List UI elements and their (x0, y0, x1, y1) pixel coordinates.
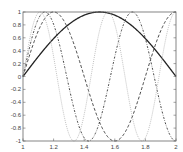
y-tick-label: -0.8 (11, 125, 22, 131)
series-dashed (23, 12, 176, 141)
y-tick-label: -1 (16, 138, 22, 144)
x-axis-ticks: 11.21.41.61.82 (21, 139, 178, 151)
y-tick-label: -0.6 (11, 112, 22, 118)
y-tick-label: 0.6 (13, 35, 22, 41)
y-tick-label: -0.4 (11, 99, 22, 105)
line-chart: 11.21.41.61.82 -1-0.8-0.6-0.4-0.200.20.4… (0, 0, 183, 152)
x-tick-label: 1.6 (111, 144, 120, 150)
plot-frame (23, 12, 176, 141)
y-tick-label: -0.2 (11, 86, 22, 92)
y-tick-label: 1 (18, 9, 22, 15)
x-tick-label: 1 (21, 144, 25, 150)
series-solid (23, 12, 176, 77)
x-tick-label: 1.4 (80, 144, 89, 150)
y-tick-label: 0.2 (13, 61, 22, 67)
y-tick-label: 0.8 (13, 22, 22, 28)
series-dash-dot (23, 12, 176, 141)
series-dotted-light (23, 12, 176, 141)
x-tick-label: 2 (174, 144, 178, 150)
y-axis-ticks: -1-0.8-0.6-0.4-0.200.20.40.60.81 (11, 9, 176, 144)
y-tick-label: 0 (18, 74, 22, 80)
series-layer (23, 12, 176, 141)
y-tick-label: 0.4 (13, 48, 22, 54)
x-tick-label: 1.2 (49, 144, 58, 150)
x-tick-label: 1.8 (141, 144, 150, 150)
